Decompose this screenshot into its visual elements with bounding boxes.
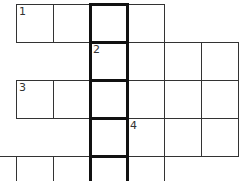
crossword-cell[interactable]: 3	[16, 80, 54, 119]
crossword-cell[interactable]	[90, 80, 128, 119]
crossword-cell[interactable]	[0, 156, 17, 181]
crossword-cell[interactable]	[53, 80, 91, 119]
crossword-cell[interactable]	[127, 42, 165, 81]
crossword-cell[interactable]	[201, 80, 239, 119]
crossword-cell[interactable]	[201, 42, 239, 81]
crossword-cell[interactable]	[127, 156, 165, 181]
crossword-cell[interactable]: 2	[90, 42, 128, 81]
crossword-cell[interactable]	[90, 156, 128, 181]
crossword-cell[interactable]	[164, 118, 202, 157]
crossword-cell[interactable]	[53, 156, 91, 181]
crossword-cell[interactable]	[201, 118, 239, 157]
crossword-cell[interactable]	[53, 4, 91, 43]
clue-number: 1	[19, 6, 26, 17]
crossword-cell[interactable]	[16, 156, 54, 181]
crossword-cell[interactable]	[90, 4, 128, 43]
clue-number: 3	[19, 82, 26, 93]
crossword-cell[interactable]	[164, 80, 202, 119]
crossword-cell[interactable]: 1	[16, 4, 54, 43]
clue-number: 4	[130, 120, 137, 131]
crossword-cell[interactable]	[127, 4, 165, 43]
crossword-cell[interactable]	[164, 42, 202, 81]
clue-number: 2	[93, 44, 100, 55]
crossword-cell[interactable]: 4	[127, 118, 165, 157]
crossword-cell[interactable]	[127, 80, 165, 119]
crossword-cell[interactable]	[90, 118, 128, 157]
